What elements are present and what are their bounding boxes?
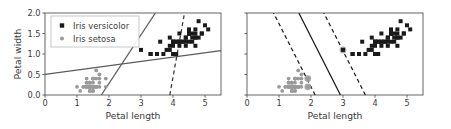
scatter-point-versicolor [373, 44, 377, 48]
scatter-point-versicolor [193, 32, 197, 36]
scatter-point-versicolor [168, 36, 172, 40]
x-tick-label: 5 [404, 98, 409, 108]
scatter-point-setosa [78, 89, 82, 93]
legend-entry-label: Iris setosa [73, 34, 116, 44]
scatter-point-setosa [296, 69, 300, 73]
legend-marker-setosa [60, 37, 64, 41]
scatter-point-versicolor [197, 36, 201, 40]
scatter-point-setosa [300, 73, 304, 77]
scatter-point-setosa [306, 85, 310, 89]
scatter-point-versicolor [165, 48, 169, 52]
x-tick-label: 0 [244, 98, 249, 108]
scatter-point-versicolor [399, 19, 403, 23]
scatter-point-setosa [91, 77, 95, 81]
scatter-point-versicolor [360, 40, 364, 44]
scatter-point-versicolor [177, 44, 181, 48]
scatter-point-setosa [88, 81, 92, 85]
scatter-point-setosa [98, 73, 102, 77]
scatter-point-setosa [104, 85, 108, 89]
scatter-point-versicolor [392, 36, 396, 40]
x-tick-label: 3 [138, 98, 143, 108]
scatter-point-versicolor [184, 36, 188, 40]
scatter-point-versicolor [155, 52, 159, 56]
plot-frame [247, 13, 423, 95]
x-tick-label: 5 [202, 98, 207, 108]
x-tick-label: 0 [42, 98, 47, 108]
scatter-point-versicolor [187, 32, 191, 36]
large-margin-panel: 012345Petal length [225, 0, 451, 129]
scatter-point-versicolor [376, 52, 380, 56]
scatter-point-setosa [290, 85, 294, 89]
x-tick-label: 3 [340, 98, 345, 108]
scatter-point-setosa [290, 81, 294, 85]
scatter-point-versicolor [203, 23, 207, 27]
scatter-point-versicolor [392, 40, 396, 44]
scatter-point-versicolor [383, 40, 387, 44]
y-tick-label: 2.0 [27, 8, 40, 18]
x-axis-title: Petal length [106, 110, 161, 121]
scatter-point-versicolor [389, 32, 393, 36]
scatter-point-versicolor [177, 32, 181, 36]
scatter-point-versicolor [399, 36, 403, 40]
scatter-point-versicolor [395, 32, 399, 36]
x-tick-label: 1 [276, 98, 281, 108]
scatter-point-setosa [287, 77, 291, 81]
x-tick-label: 4 [372, 98, 377, 108]
y-tick-label: 1.0 [27, 49, 40, 59]
right-axes: 012345Petal length [225, 0, 451, 129]
scatter-point-versicolor [187, 27, 191, 31]
scatter-point-versicolor [402, 32, 406, 36]
scatter-point-versicolor [161, 52, 165, 56]
scatter-point-versicolor [395, 44, 399, 48]
scatter-point-versicolor [197, 19, 201, 23]
scatter-point-setosa [98, 81, 102, 85]
scatter-point-versicolor [190, 40, 194, 44]
scatter-point-setosa [300, 81, 304, 85]
scatter-point-versicolor [386, 44, 390, 48]
legend: Iris versicolorIris setosa [51, 16, 139, 47]
scatter-point-versicolor [408, 27, 412, 31]
scatter-point-setosa [88, 85, 92, 89]
scatter-point-setosa [290, 89, 294, 93]
legend-entry-label: Iris versicolor [73, 21, 130, 31]
scatter-point-setosa [277, 85, 281, 89]
x-tick-label: 2 [106, 98, 111, 108]
x-tick-label: 2 [308, 98, 313, 108]
scatter-point-versicolor [206, 27, 210, 31]
iris-decision-boundary-figure: 0123450.00.51.01.52.0Petal lengthPetal w… [0, 0, 451, 129]
x-tick-label: 1 [74, 98, 79, 108]
x-axis-title: Petal length [308, 110, 363, 121]
scatter-point-versicolor [376, 40, 380, 44]
scatter-point-setosa [75, 85, 79, 89]
scatter-point-versicolor [357, 52, 361, 56]
scatter-point-versicolor [379, 44, 383, 48]
scatter-point-setosa [94, 69, 98, 73]
scatter-point-versicolor [139, 48, 143, 52]
scatter-point-setosa [85, 77, 89, 81]
scatter-point-versicolor [190, 36, 194, 40]
scatter-point-versicolor [193, 27, 197, 31]
y-tick-label: 0.0 [27, 90, 40, 100]
scatter-point-setosa [104, 77, 108, 81]
scatter-point-versicolor [379, 32, 383, 36]
scatter-point-setosa [280, 89, 284, 93]
scatter-point-versicolor [341, 48, 345, 52]
scatter-point-versicolor [395, 27, 399, 31]
scatter-point-versicolor [149, 52, 153, 56]
scatter-point-versicolor [386, 36, 390, 40]
scatter-point-versicolor [181, 40, 185, 44]
scatter-point-versicolor [171, 44, 175, 48]
scatter-point-versicolor [370, 36, 374, 40]
left-axes: 0123450.00.51.01.52.0Petal lengthPetal w… [0, 0, 225, 129]
y-tick-label: 1.5 [27, 29, 40, 39]
scatter-point-versicolor [389, 27, 393, 31]
scatter-point-setosa [306, 77, 310, 81]
scatter-point-versicolor [174, 40, 178, 44]
scatter-point-versicolor [174, 52, 178, 56]
scatter-point-versicolor [200, 32, 204, 36]
scatter-point-versicolor [363, 52, 367, 56]
bad-models-panel: 0123450.00.51.01.52.0Petal lengthPetal w… [0, 0, 225, 129]
scatter-point-setosa [88, 89, 92, 93]
x-tick-label: 4 [170, 98, 175, 108]
scatter-point-versicolor [367, 48, 371, 52]
